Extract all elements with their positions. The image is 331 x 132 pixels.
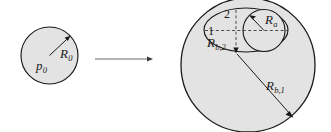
initial-droplet-group: R0 p0: [21, 27, 78, 84]
split-droplet-group: 2 1 Ra Rb,2 Rb,1: [181, 0, 315, 132]
region-two-label: 2: [224, 7, 230, 21]
transition-arrow: [95, 56, 153, 61]
droplet-transformation-diagram: R0 p0: [0, 0, 331, 132]
diagram-canvas: R0 p0: [0, 0, 331, 132]
transition-arrow-head: [147, 56, 153, 61]
